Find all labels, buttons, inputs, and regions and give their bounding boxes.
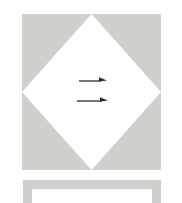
bottom-panel-interior <box>32 189 152 203</box>
arrow-right-icon-lower <box>77 96 108 104</box>
arrow-right-icon-upper <box>79 76 107 84</box>
diagram-canvas <box>0 0 182 203</box>
